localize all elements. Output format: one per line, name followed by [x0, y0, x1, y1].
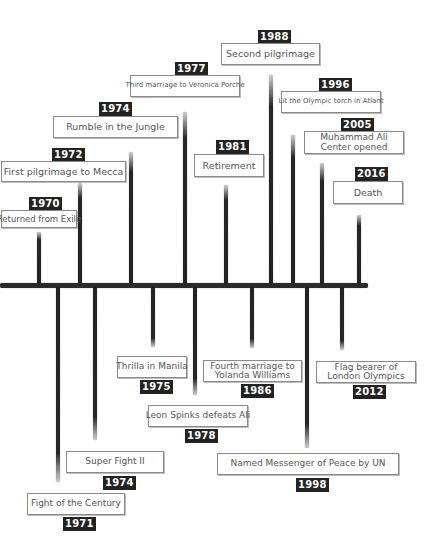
event-box-1974-superfight: Super Fight II — [66, 451, 164, 473]
event-box-1971: Fight of the Century — [27, 493, 125, 515]
event-label-line2: London Olympics — [327, 372, 404, 381]
event-label: Death — [354, 188, 383, 198]
event-label: Fight of the Century — [31, 499, 121, 508]
event-label: Lit the Olympic torch in Atlant — [278, 98, 383, 105]
event-box-1986: Fourth marriage to Yolanda Williams — [203, 360, 302, 382]
timeline-diagram: 1970 Returned from Exile 1972 First pilg… — [0, 0, 439, 558]
event-label: Super Fight II — [85, 457, 144, 466]
event-box-1974-rumble: Rumble in the Jungle — [53, 116, 178, 138]
year-badge-1974-superfight: 1974 — [103, 476, 136, 490]
stem-1977 — [183, 112, 187, 285]
event-box-1970: Returned from Exile — [1, 210, 77, 228]
stem-1971 — [56, 286, 60, 482]
event-label-line2: Center opened — [321, 143, 388, 152]
stem-1988 — [269, 75, 273, 285]
event-box-1998: Named Messenger of Peace by UN — [217, 453, 399, 475]
year-badge-1988: 1988 — [258, 30, 291, 44]
year-badge-2012: 2012 — [353, 385, 386, 399]
stem-1974-rumble — [129, 152, 133, 285]
year-badge-2005: 2005 — [341, 118, 374, 132]
stem-1975 — [151, 286, 155, 347]
stem-1970 — [37, 232, 41, 285]
event-label: First pilgrimage to Mecca — [4, 167, 124, 177]
event-box-1981: Retirement — [194, 154, 264, 177]
stem-1996 — [291, 135, 295, 285]
event-label-line2: Yolanda Williams — [215, 371, 290, 380]
event-box-2005: Muhammad Ali Center opened — [304, 131, 404, 154]
event-label: Rumble in the Jungle — [66, 122, 165, 132]
event-box-1975: Thrilla in Manila — [117, 356, 187, 378]
year-badge-1971: 1971 — [63, 517, 96, 531]
year-badge-1998: 1998 — [296, 478, 329, 492]
event-label: Returned from Exile — [0, 215, 81, 224]
event-box-2016: Death — [333, 181, 403, 204]
year-badge-1981: 1981 — [216, 140, 249, 154]
event-label: Third marriage to Veronica Porche — [125, 82, 244, 89]
year-badge-1978: 1978 — [185, 429, 218, 443]
event-box-2012: Flag bearer of London Olympics — [316, 361, 416, 383]
year-badge-1996: 1996 — [319, 78, 352, 92]
event-box-1996: Lit the Olympic torch in Atlant — [281, 91, 381, 113]
event-box-1988: Second pilgrimage — [221, 43, 320, 65]
stem-1981 — [224, 185, 228, 285]
stem-2012 — [340, 286, 344, 350]
year-badge-1972: 1972 — [52, 148, 85, 162]
event-box-1977: Third marriage to Veronica Porche — [130, 75, 240, 97]
stem-2005 — [320, 163, 324, 285]
year-badge-1974-rumble: 1974 — [99, 102, 132, 116]
year-badge-1975: 1975 — [140, 380, 173, 394]
year-badge-1977: 1977 — [175, 62, 208, 76]
stem-2016 — [357, 215, 361, 285]
event-label: Thrilla in Manila — [116, 362, 187, 371]
stem-1986 — [250, 286, 254, 348]
event-box-1972: First pilgrimage to Mecca — [1, 161, 126, 182]
year-badge-1986: 1986 — [241, 384, 274, 398]
event-label: Second pilgrimage — [226, 49, 315, 59]
event-label: Leon Spinks defeats Ali — [146, 411, 251, 420]
stem-1974-superfight — [93, 286, 97, 440]
stem-1998 — [305, 286, 309, 448]
year-badge-1970: 1970 — [29, 197, 62, 211]
event-label: Retirement — [203, 161, 256, 171]
stem-1972 — [78, 183, 82, 285]
event-box-1978: Leon Spinks defeats Ali — [148, 405, 248, 427]
year-badge-2016: 2016 — [355, 167, 388, 181]
event-label: Named Messenger of Peace by UN — [230, 459, 385, 468]
stem-1978 — [193, 286, 197, 395]
